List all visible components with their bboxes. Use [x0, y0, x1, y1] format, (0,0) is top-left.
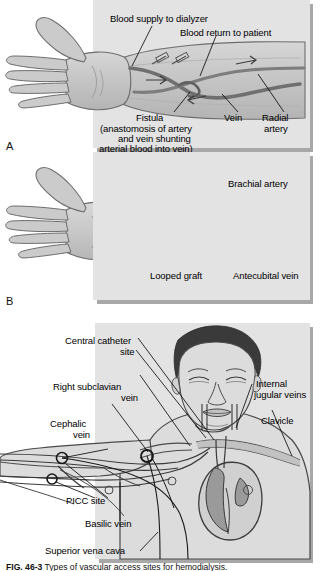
label-basilic-vein: Basilic vein — [85, 519, 131, 530]
label-right-subclavian-vein-line1: Right subclavian — [53, 382, 121, 393]
label-picc-site: PICC site — [66, 496, 105, 507]
label-right-subclavian-vein-line2: vein — [121, 393, 138, 404]
heart-illustration — [199, 462, 262, 540]
figure-caption-text: Types of vascular access sites for hemod… — [45, 562, 228, 571]
label-cephalic-vein-line1: Cephalic — [50, 419, 86, 430]
label-internal-jugular-veins-line2: jugular veins — [254, 390, 306, 401]
label-superior-vena-cava: Superior vena cava — [45, 546, 125, 557]
panel-c-artwork — [0, 0, 324, 571]
figure-caption-number: FIG. 46-3 — [6, 562, 42, 571]
figure-root: Blood supply to dialyzer Blood return to… — [0, 0, 324, 571]
label-internal-jugular-veins-line1: Internal — [256, 379, 287, 390]
label-cephalic-vein-line2: vein — [73, 430, 90, 441]
label-clavicle: Clavicle — [261, 416, 293, 427]
label-central-catheter-site-line1: Central catheter — [65, 336, 131, 347]
figure-caption: FIG. 46-3 Types of vascular access sites… — [6, 563, 324, 571]
label-central-catheter-site-line2: site — [120, 347, 134, 358]
